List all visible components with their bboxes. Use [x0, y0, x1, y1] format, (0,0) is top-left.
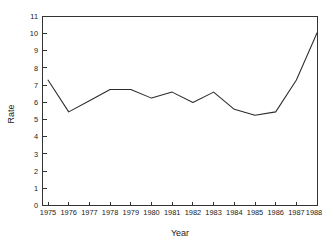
x-tick-label: 1983: [205, 208, 221, 217]
y-tick-label: 9: [34, 46, 38, 55]
x-tick-label: 1985: [247, 208, 263, 217]
x-tick-label: 1977: [81, 208, 97, 217]
line-chart: 0 1 2 3 4 5 6: [0, 0, 333, 246]
x-tick-label: 1978: [102, 208, 118, 217]
y-tick-label: 8: [34, 64, 38, 73]
y-tick-label: 6: [34, 98, 38, 107]
y-tick-label: 7: [34, 81, 38, 90]
x-tick-label: 1982: [185, 208, 201, 217]
chart-figure: 0 1 2 3 4 5 6: [0, 0, 333, 246]
y-tick-label: 2: [34, 167, 38, 176]
y-tick-label: 11: [30, 12, 38, 21]
y-tick-label: 10: [30, 29, 38, 38]
x-tick-label: 1986: [267, 208, 283, 217]
y-tick-label: 1: [34, 184, 38, 193]
y-tick-label: 4: [34, 132, 38, 141]
x-tick-label: 1987: [288, 208, 304, 217]
y-tick-label: 5: [34, 115, 38, 124]
x-tick-label: 1988: [306, 208, 322, 217]
y-tick-label: 0: [34, 201, 38, 210]
x-tick-label: 1979: [123, 208, 139, 217]
x-tick-label: 1984: [226, 208, 242, 217]
x-axis-title: Year: [171, 228, 189, 238]
x-tick-label: 1975: [40, 208, 56, 217]
x-tick-label: 1980: [143, 208, 159, 217]
y-axis-title: Rate: [6, 104, 16, 123]
x-tick-label: 1981: [164, 208, 180, 217]
x-tick-label: 1976: [60, 208, 76, 217]
y-tick-label: 3: [34, 150, 38, 159]
